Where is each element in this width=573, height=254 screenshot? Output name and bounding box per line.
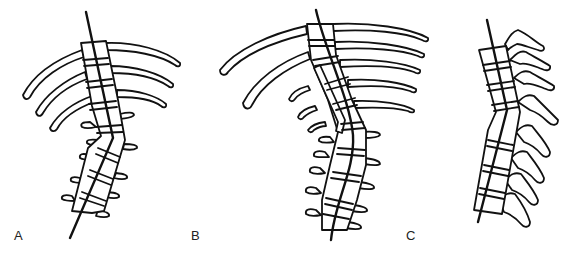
process-b-3 [314, 151, 329, 157]
panel-label-c: C [406, 228, 415, 243]
panel-c-drawing [474, 20, 558, 227]
rib-b-right-1 [333, 24, 428, 42]
rib-stub-3 [308, 122, 326, 132]
rib-right-1 [106, 43, 180, 66]
panel-a-drawing [23, 12, 180, 238]
spinous-process-4 [518, 95, 558, 125]
rib-b-right-5 [354, 101, 414, 113]
rib-b-right-4 [348, 80, 416, 93]
rib-b-right-3 [340, 60, 420, 74]
process-a-9 [62, 195, 75, 201]
process-a-4 [123, 144, 137, 150]
process-b-5 [310, 167, 325, 173]
rib-stub-2 [298, 106, 317, 119]
process-b-1 [319, 137, 334, 143]
spine-diagram-svg [0, 0, 573, 254]
spinous-process-2 [510, 51, 550, 70]
spine-figure: A B C [0, 0, 573, 254]
rib-right-3 [117, 90, 166, 107]
rib-b-left-2 [243, 52, 310, 109]
rib-b-left-1 [220, 26, 307, 75]
process-b-9 [306, 209, 321, 215]
spinous-process-3 [514, 71, 554, 90]
process-a-1 [81, 122, 96, 128]
process-b-7 [306, 187, 321, 193]
panel-b-drawing [220, 10, 428, 240]
process-a-6 [114, 173, 127, 179]
process-a-2 [120, 113, 134, 119]
rib-b-right-2 [335, 42, 424, 58]
spinous-process-1 [505, 30, 544, 51]
rib-right-2 [110, 66, 173, 87]
panel-label-b: B [191, 228, 200, 243]
panel-label-a: A [14, 228, 23, 243]
rib-stub-1 [289, 86, 310, 101]
